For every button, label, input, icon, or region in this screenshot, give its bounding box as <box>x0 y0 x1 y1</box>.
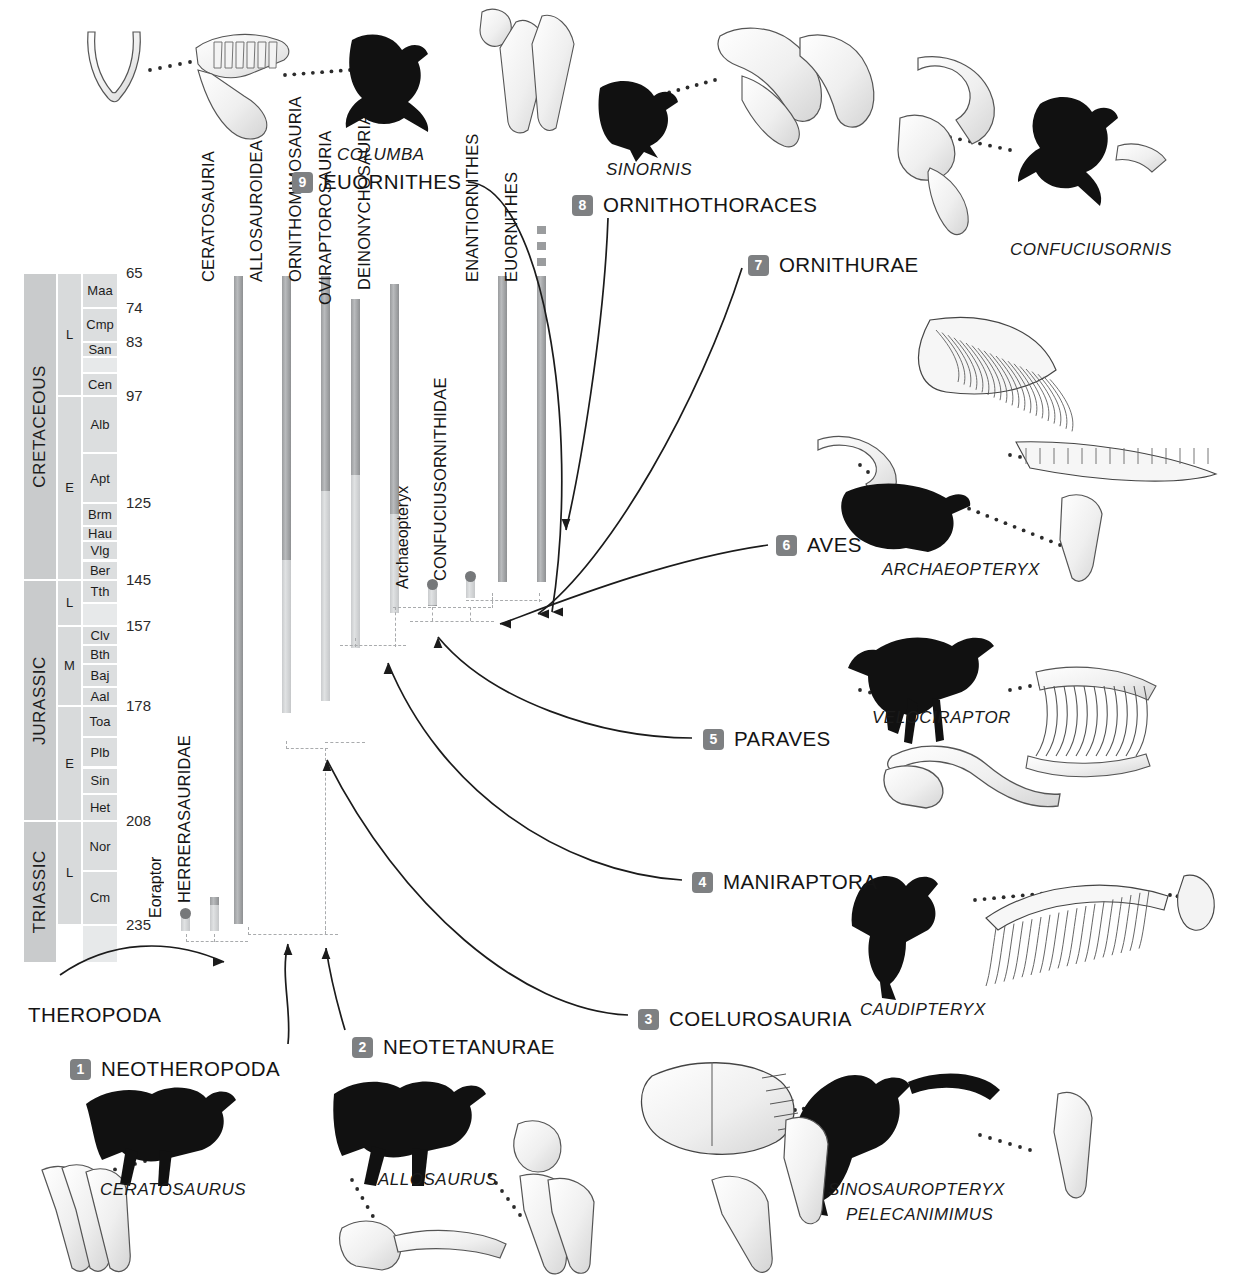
age-tick: 97 <box>126 386 143 403</box>
skull-element <box>225 42 233 68</box>
timescale-epoch: L <box>57 580 82 626</box>
plate-process <box>766 1087 790 1091</box>
dotted-connector-dot <box>178 62 182 66</box>
dotted-connector-dot <box>527 70 531 74</box>
contour-feather <box>1103 899 1113 957</box>
dotted-connector-dot <box>1002 895 1006 899</box>
geologic-timescale: CRETACEOUSJURASSICTRIASSICLELMELMaaCmpSa… <box>22 272 119 964</box>
clade-node-ornithothoraces[interactable]: 8ORNITHOTHORACES <box>572 193 817 217</box>
genus-caption-confuciusornis: CONFUCIUSORNIS <box>1010 240 1172 260</box>
skull-element <box>236 42 244 68</box>
wing-feather <box>984 351 1007 403</box>
dotted-connector-dot <box>371 1214 375 1218</box>
rib-bone <box>1106 686 1117 756</box>
leader-arrowhead <box>322 948 331 959</box>
node-name: EUORNITHES <box>323 170 461 194</box>
dotted-connector-dot <box>978 1133 982 1137</box>
contour-feather <box>986 928 996 986</box>
extant-range-segment <box>537 258 546 266</box>
connector <box>325 748 326 934</box>
range-bar <box>537 276 546 583</box>
clade-label-theropoda: THEROPODA <box>28 1003 161 1027</box>
pelecanimimus-tibia-bone <box>784 1117 828 1223</box>
connector <box>393 607 491 608</box>
node-number-badge: 4 <box>692 872 713 893</box>
clade-node-coelurosauria[interactable]: 3COELUROSAURIA <box>638 1007 852 1031</box>
wing-feather <box>990 353 1013 405</box>
timescale-stage: Tth <box>82 580 118 603</box>
dotted-connector-dot <box>1040 892 1044 896</box>
clade-node-paraves[interactable]: 5PARAVES <box>703 727 831 751</box>
dotted-connector-dot <box>874 477 878 481</box>
genus-caption-archaeopteryx: ARCHAEOPTERYX <box>882 560 1040 580</box>
contour-feather <box>1067 908 1077 966</box>
pelecanimimus-sternal-plate-bone <box>642 1063 794 1155</box>
connector <box>355 638 356 647</box>
dotted-connector-dot <box>519 65 523 69</box>
dotted-connector-dot <box>958 503 962 507</box>
dotted-connector-dot <box>858 463 862 467</box>
timescale-epoch: E <box>57 706 82 821</box>
leader-line <box>438 637 692 738</box>
sinornis-bird-silhouette <box>599 81 679 162</box>
clade-node-euornithes[interactable]: 9EUORNITHES <box>292 170 461 194</box>
dotted-connector-dot <box>704 81 708 85</box>
timescale-stage: Clv <box>82 626 118 645</box>
node-name: ORNITHURAE <box>779 253 919 277</box>
timescale-era-cretaceous: CRETACEOUS <box>23 273 57 580</box>
timescale-stage: Sin <box>82 768 118 795</box>
dotted-connector-dot <box>1028 684 1032 688</box>
dotted-connector-dot <box>512 1205 516 1209</box>
genus-caption-sinosauropteryx: SINOSAUROPTERYX <box>828 1180 1005 1200</box>
dotted-connector-dot <box>103 1170 107 1174</box>
dotted-connector-dot <box>1048 461 1052 465</box>
leader-line <box>327 760 628 1015</box>
taxon-label: Archaeopteryx <box>394 485 412 588</box>
node-number-badge: 9 <box>292 172 313 193</box>
age-tick: 145 <box>126 570 151 587</box>
dotted-connector-dot <box>1058 462 1062 466</box>
allosaurus-manus-bone <box>520 1174 572 1274</box>
genus-caption-columba: COLUMBA <box>337 145 425 165</box>
clade-node-neotetanurae[interactable]: 2NEOTETANURAE <box>352 1035 555 1059</box>
allosaurus-limb-bone <box>394 1230 506 1258</box>
leader-arrowhead <box>552 608 563 617</box>
wing-feather <box>1026 369 1049 421</box>
wing-feather <box>966 343 989 395</box>
archaeopteryx-tail-illustration <box>1016 442 1216 481</box>
timescale-stage: Cmp <box>82 308 118 343</box>
dotted-connector-dot <box>143 1159 147 1163</box>
dotted-connector-dot <box>503 53 507 57</box>
dotted-connector-dot <box>133 1162 137 1166</box>
dotted-connector-dot <box>348 68 352 72</box>
dotted-connector-dot <box>518 1213 522 1217</box>
timescale-epoch: E <box>57 396 82 580</box>
skull-element <box>269 42 277 68</box>
connector <box>286 741 287 749</box>
dotted-connector-dot <box>1018 1145 1022 1149</box>
clade-node-aves[interactable]: 6AVES <box>776 533 862 557</box>
leader-arrowhead <box>562 519 571 530</box>
dotted-connector-dot <box>985 514 989 518</box>
connector <box>186 941 248 942</box>
connector <box>186 934 187 942</box>
wing-feather <box>936 330 959 382</box>
dotted-connector-dot <box>713 78 717 82</box>
rib-bone <box>1046 686 1057 756</box>
era-label: JURASSIC <box>30 656 50 745</box>
confuciusornis-limb-bone <box>928 168 968 234</box>
genus-caption-ceratosaurus: CERATOSAURUS <box>100 1180 246 1200</box>
timescale-stage <box>82 357 118 372</box>
node-name: AVES <box>807 533 862 557</box>
dotted-connector-dot <box>968 140 972 144</box>
connector <box>214 934 215 942</box>
caudipteryx-feather-illustration <box>986 885 1168 930</box>
clade-node-ornithurae[interactable]: 7ORNITHURAE <box>748 253 919 277</box>
genus-caption-velociraptor: VELOCIRAPTOR <box>872 708 1011 728</box>
dotted-connector-dot <box>163 1154 167 1158</box>
clade-node-neotheropoda[interactable]: 1NEOTHEROPODA <box>70 1057 280 1081</box>
dotted-connector-dot <box>511 59 515 63</box>
dotted-connector-dot <box>1088 468 1092 472</box>
dotted-connector-dot <box>1004 521 1008 525</box>
clade-node-maniraptora[interactable]: 4MANIRAPTORA <box>692 870 877 894</box>
